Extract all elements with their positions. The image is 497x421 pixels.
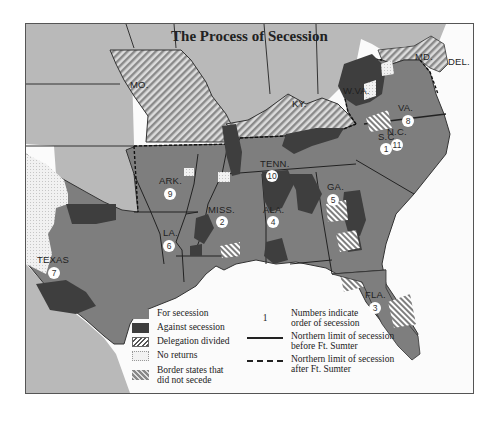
legend-item-border-states: Border states thatdid not secede — [132, 365, 223, 385]
order-number-symbol: 1 — [247, 313, 283, 323]
state-label-va: VA. — [398, 102, 413, 113]
no-returns-swatch — [132, 351, 149, 361]
for-secession-swatch — [132, 309, 149, 319]
map-title: The Process of Secession — [26, 28, 473, 45]
state-label-wva: W.VA. — [343, 85, 370, 96]
state-label-md: MD. — [415, 51, 433, 62]
state-label-mo: MO. — [130, 79, 149, 90]
legend-item-limit-before: Northern limit of secessionbefore Ft. Su… — [247, 331, 394, 351]
against-secession-swatch — [132, 323, 149, 333]
secession-order-texas: 7 — [48, 267, 60, 279]
delegation-divided-swatch — [132, 337, 149, 347]
legend-item-against: Against secession — [132, 322, 225, 333]
secession-order-ark: 9 — [164, 188, 176, 200]
secession-order-fla: 3 — [369, 302, 381, 314]
state-label-la: LA. — [163, 227, 178, 238]
secession-order-ga: 5 — [327, 194, 339, 206]
secession-order-ala: 4 — [267, 216, 279, 228]
state-label-ky: KY. — [292, 98, 307, 109]
secession-order-la: 6 — [163, 240, 175, 252]
state-label-ga: GA. — [327, 181, 344, 192]
state-label-nc: N.C. — [387, 126, 407, 137]
solid-line-symbol — [247, 337, 283, 339]
dashed-line-symbol — [247, 360, 283, 362]
state-label-del: DEL. — [448, 56, 470, 67]
state-label-ala: ALA. — [263, 204, 284, 215]
state-label-tenn: TENN. — [260, 158, 290, 169]
state-label-texas: TEXAS — [37, 254, 69, 265]
secession-order-tenn: 10 — [266, 170, 278, 182]
legend-item-for: For secession — [132, 308, 208, 319]
secession-order-miss: 2 — [216, 216, 228, 228]
state-label-fla: FLA. — [365, 289, 386, 300]
map-frame: The Process of Secession MO. KY. MD. DEL… — [25, 23, 474, 394]
legend-item-no-returns: No returns — [132, 350, 197, 361]
border-states-swatch — [132, 370, 149, 380]
secession-order-nc: 11 — [391, 139, 403, 151]
state-label-ark: ARK. — [159, 175, 182, 186]
legend-item-divided: Delegation divided — [132, 336, 230, 347]
state-label-miss: MISS. — [208, 204, 235, 215]
legend-item-limit-after: Northern limit of secessionafter Ft. Sum… — [247, 354, 394, 374]
legend-item-numbers: 1 Numbers indicateorder of secession — [247, 308, 360, 328]
